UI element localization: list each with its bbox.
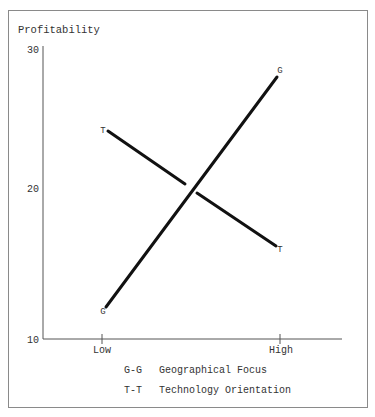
ytick-10: 10 [27, 335, 39, 346]
series-technology-orientation-line-a [108, 131, 185, 184]
legend-g-key: G-G [124, 365, 142, 376]
y-axis-title: Profitability [18, 24, 100, 36]
ytick-30: 30 [27, 45, 39, 56]
xtick-low: Low [93, 345, 111, 356]
legend-t-label: Technology Orientation [159, 385, 291, 396]
marker-t-high: T [277, 245, 283, 255]
marker-g-high: G [277, 66, 282, 76]
legend-t-key: T-T [124, 385, 142, 396]
legend: G-G Geographical Focus T-T Technology Or… [124, 365, 291, 396]
ytick-20: 20 [27, 184, 39, 195]
series-technology-orientation-line-b [197, 193, 276, 246]
series-geographical-focus-line [106, 77, 277, 307]
legend-g-label: Geographical Focus [159, 365, 267, 376]
marker-t-low: T [100, 126, 106, 136]
marker-g-low: G [100, 307, 105, 317]
chart-canvas: Profitability 30 20 10 Low High G G T T … [0, 0, 375, 417]
xtick-high: High [269, 345, 293, 356]
